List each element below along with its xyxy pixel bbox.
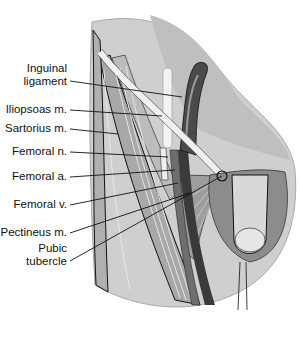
label-text: Inguinal <box>24 62 67 75</box>
label-text: Femoral n. <box>12 145 67 158</box>
label-iliopsoas: Iliopsoas m. <box>6 103 67 116</box>
label-pubic-tubercle: Pubictubercle <box>26 242 67 268</box>
label-inguinal-ligament: Inguinalligament <box>24 62 67 88</box>
label-text: Pubic <box>26 242 67 255</box>
femoral-triangle-illustration <box>0 0 300 338</box>
glans <box>235 228 265 252</box>
label-text: tubercle <box>26 255 67 268</box>
label-pectineus: Pectineus m. <box>1 226 67 239</box>
label-text: ligament <box>24 75 67 88</box>
label-text: Femoral a. <box>12 170 67 183</box>
label-femoral-v: Femoral v. <box>14 198 67 211</box>
label-text: Pectineus m. <box>1 226 67 239</box>
label-text: Femoral v. <box>14 198 67 211</box>
label-femoral-a: Femoral a. <box>12 170 67 183</box>
label-text: Iliopsoas m. <box>6 103 67 116</box>
label-femoral-n: Femoral n. <box>12 145 67 158</box>
label-sartorius: Sartorius m. <box>5 122 67 135</box>
label-text: Sartorius m. <box>5 122 67 135</box>
white-tube <box>163 68 172 148</box>
